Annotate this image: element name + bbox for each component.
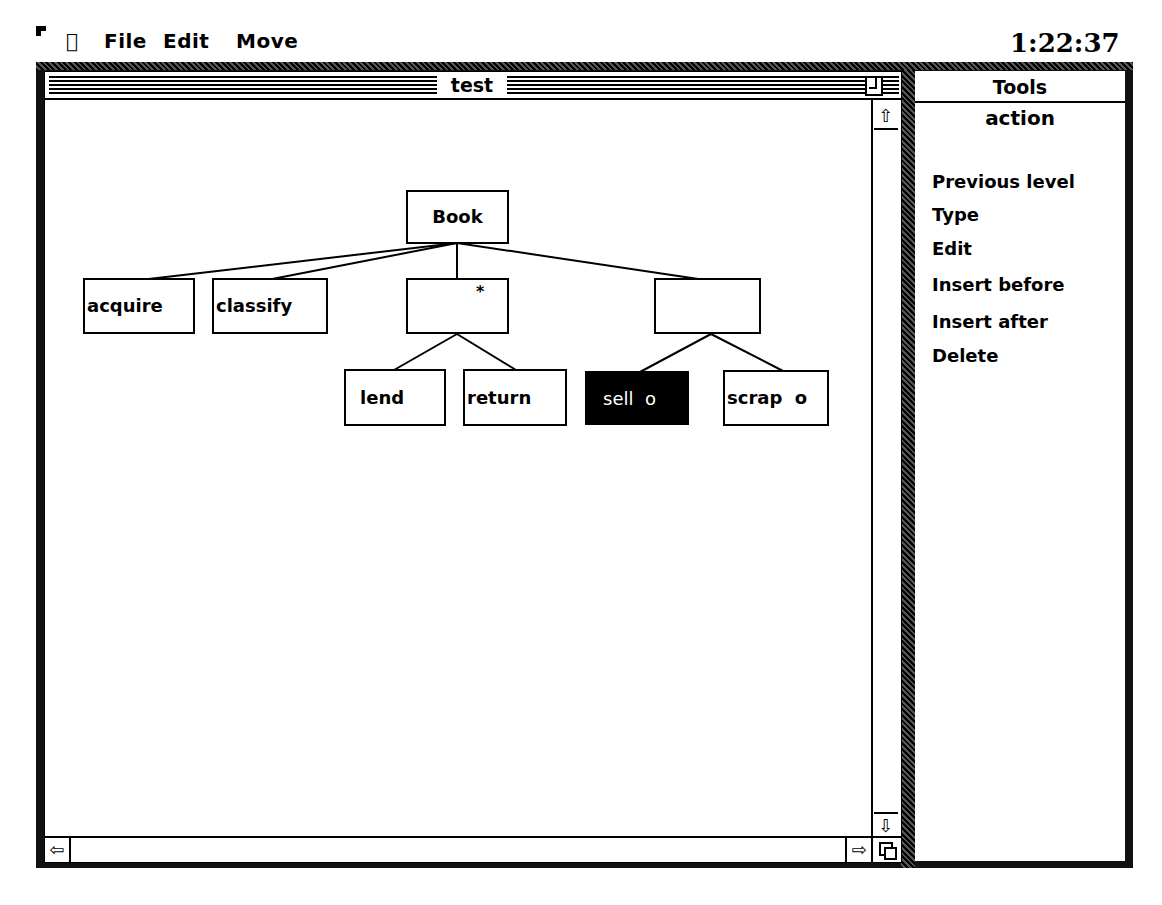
- tools-subtitle: action: [915, 105, 1125, 131]
- menu-file[interactable]: File: [104, 30, 147, 52]
- scroll-right-arrow-icon[interactable]: ⇨: [845, 838, 871, 862]
- tree-node-lend[interactable]: lend: [344, 369, 446, 426]
- tools-panel: Tools action Previous level Type Edit In…: [915, 71, 1125, 861]
- frame-top-pattern: [36, 62, 1133, 70]
- scroll-down-arrow-icon[interactable]: ⇩: [874, 812, 898, 838]
- tree-node-iteration[interactable]: *: [406, 278, 509, 334]
- document-window: test Book acquire classify * lend return…: [44, 71, 902, 863]
- screen-corner-top-left: [36, 26, 46, 36]
- menu-edit[interactable]: Edit: [163, 30, 209, 52]
- apple-menu-icon[interactable]: : [66, 30, 78, 52]
- tree-node-selection[interactable]: [654, 278, 761, 334]
- window-title-bar[interactable]: test: [45, 72, 901, 100]
- menu-move[interactable]: Move: [236, 30, 298, 52]
- tree-node-scrap[interactable]: scrap o: [723, 370, 829, 426]
- zoom-box-icon[interactable]: [865, 76, 883, 96]
- tree-node-return[interactable]: return: [463, 369, 567, 426]
- tree-node-acquire[interactable]: acquire: [83, 278, 195, 334]
- size-box-icon[interactable]: [871, 836, 901, 862]
- scroll-left-arrow-icon[interactable]: ⇦: [45, 838, 71, 862]
- tool-insert-after[interactable]: Insert after: [932, 311, 1048, 333]
- tool-insert-before[interactable]: Insert before: [932, 274, 1065, 296]
- window-title: test: [439, 74, 505, 96]
- tool-previous-level[interactable]: Previous level: [932, 171, 1075, 193]
- scroll-up-arrow-icon[interactable]: ⇧: [874, 104, 898, 130]
- tree-node-sell[interactable]: sell o: [585, 371, 689, 425]
- tool-delete[interactable]: Delete: [932, 345, 998, 367]
- tool-type[interactable]: Type: [932, 204, 979, 226]
- window-divider: [901, 62, 915, 868]
- vertical-scrollbar[interactable]: ⇧ ⇩: [871, 100, 901, 840]
- menu-clock: 1:22:37: [1010, 28, 1120, 58]
- horizontal-scrollbar[interactable]: ⇦ ⇨: [45, 836, 871, 862]
- tool-edit[interactable]: Edit: [932, 238, 972, 260]
- tree-node-root[interactable]: Book: [406, 190, 509, 244]
- menu-bar:  File Edit Move 1:22:37: [0, 0, 1162, 60]
- title-bar-stripes-left: [49, 76, 437, 94]
- tree-node-classify[interactable]: classify: [212, 278, 328, 334]
- title-bar-stripes-right: [507, 76, 899, 94]
- tools-title: Tools: [915, 71, 1125, 103]
- tree-canvas: Book acquire classify * lend return sell…: [45, 100, 871, 836]
